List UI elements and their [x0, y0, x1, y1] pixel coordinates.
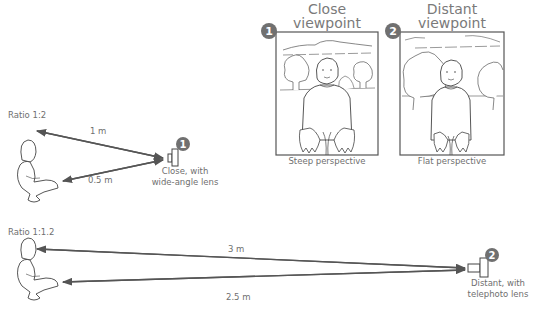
camera-label-2: Distant, with telephoto lens: [460, 278, 535, 300]
svg-text:1: 1: [180, 139, 187, 150]
distance-feet-label-1: 0.5 m: [88, 175, 113, 185]
panel-close-illustration: [276, 32, 378, 155]
svg-text:2: 2: [489, 250, 496, 261]
panel-1-title: Close viewpoint: [276, 2, 378, 30]
crouching-figure-1: [18, 140, 59, 202]
distance-feet-label-2: 2.5 m: [226, 292, 251, 302]
panel-2-caption: Flat perspective: [396, 156, 508, 166]
distance-head-label-2: 3 m: [228, 244, 244, 254]
camera-close-icon: [168, 149, 178, 166]
ratio-label-1: Ratio 1:2: [8, 110, 46, 120]
svg-text:2: 2: [389, 25, 397, 38]
camera-label-1: Close, with wide-angle lens: [142, 166, 228, 188]
camera-telephoto-icon: [468, 258, 488, 277]
ratio-label-2: Ratio 1:1.2: [8, 227, 54, 237]
distance-head-label-1: 1 m: [90, 126, 106, 136]
crouching-figure-2: [18, 238, 59, 300]
svg-text:1: 1: [265, 25, 273, 38]
panel-2-title: Distant viewpoint: [400, 2, 504, 30]
panel-1-caption: Steep perspective: [270, 156, 384, 166]
panel-distant-illustration: [400, 32, 504, 155]
